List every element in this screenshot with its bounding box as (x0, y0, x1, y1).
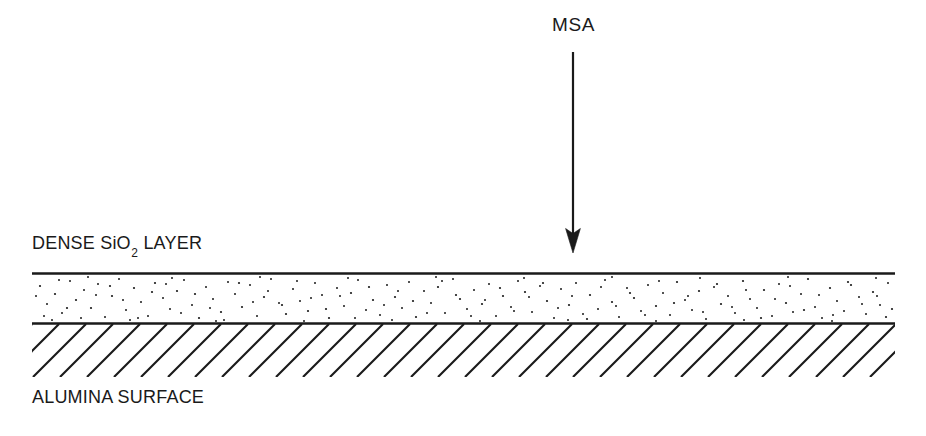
alumina-surface-label: ALUMINA SURFACE (32, 386, 204, 408)
sio2-label-suffix: LAYER (138, 233, 202, 253)
msa-beam-arrow (566, 52, 581, 253)
figure-canvas: MSA DENSE SiO2 LAYER ALUMINA SURFACE (0, 0, 926, 436)
sio2-label-subscript: 2 (131, 246, 138, 260)
sio2-stipple-fill (35, 276, 893, 322)
schematic-drawing (0, 0, 926, 436)
msa-label: MSA (552, 14, 595, 36)
sio2-label-prefix: DENSE SiO (32, 233, 131, 253)
dense-sio2-layer-label: DENSE SiO2 LAYER (32, 232, 202, 254)
alumina-hatch-group (0, 324, 923, 377)
